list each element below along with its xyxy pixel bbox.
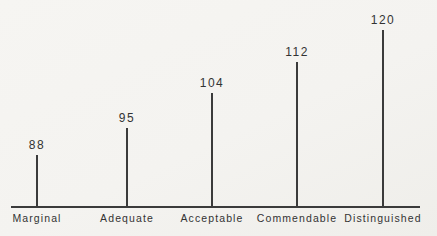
value-label: 95: [102, 111, 152, 125]
value-label: 120: [358, 13, 408, 27]
stem-line: [382, 30, 384, 206]
value-label: 104: [187, 76, 237, 90]
stem-chart-figure: 88Marginal95Adequate104Acceptable112Comm…: [0, 0, 437, 236]
stem-line: [36, 155, 38, 206]
stem-line: [126, 128, 128, 206]
category-label: Commendable: [247, 212, 347, 224]
stem-line: [296, 62, 298, 206]
category-label: Distinguished: [333, 212, 433, 224]
x-axis-line: [11, 206, 420, 208]
value-label: 112: [272, 45, 322, 59]
stem-line: [211, 93, 213, 206]
category-label: Marginal: [0, 212, 87, 224]
value-label: 88: [12, 138, 62, 152]
